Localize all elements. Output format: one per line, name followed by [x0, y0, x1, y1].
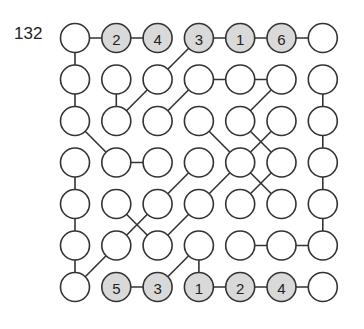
puzzle-board: 2431653124 [0, 0, 364, 329]
empty-node[interactable] [61, 231, 90, 260]
empty-node[interactable] [143, 65, 172, 94]
empty-node[interactable] [102, 190, 131, 219]
empty-node[interactable] [308, 107, 337, 136]
node-circle[interactable] [102, 65, 131, 94]
node-circle[interactable] [102, 107, 131, 136]
clue-node[interactable]: 4 [143, 24, 172, 53]
clue-node[interactable]: 2 [226, 273, 255, 302]
node-circle[interactable] [308, 65, 337, 94]
empty-node[interactable] [308, 148, 337, 177]
empty-node[interactable] [61, 65, 90, 94]
node-circle[interactable] [226, 107, 255, 136]
node-circle[interactable] [267, 65, 296, 94]
node-circle[interactable] [267, 148, 296, 177]
empty-node[interactable] [184, 148, 213, 177]
node-circle[interactable] [61, 24, 90, 53]
node-circle[interactable] [267, 107, 296, 136]
clue-value: 2 [236, 280, 244, 297]
empty-node[interactable] [143, 148, 172, 177]
node-circle[interactable] [61, 148, 90, 177]
node-circle[interactable] [61, 65, 90, 94]
clue-value: 1 [195, 280, 203, 297]
node-circle[interactable] [267, 231, 296, 260]
clue-node[interactable]: 6 [267, 24, 296, 53]
node-circle[interactable] [308, 273, 337, 302]
clue-value: 4 [153, 31, 161, 48]
node-circle[interactable] [184, 231, 213, 260]
empty-node[interactable] [226, 190, 255, 219]
node-circle[interactable] [184, 65, 213, 94]
node-circle[interactable] [61, 273, 90, 302]
empty-node[interactable] [267, 65, 296, 94]
node-circle[interactable] [143, 190, 172, 219]
empty-node[interactable] [267, 190, 296, 219]
empty-node[interactable] [226, 148, 255, 177]
node-circle[interactable] [102, 190, 131, 219]
node-circle[interactable] [184, 190, 213, 219]
node-circle[interactable] [308, 231, 337, 260]
empty-node[interactable] [267, 231, 296, 260]
node-circle[interactable] [308, 107, 337, 136]
empty-node[interactable] [308, 24, 337, 53]
node-circle[interactable] [226, 148, 255, 177]
clue-value: 3 [153, 280, 161, 297]
clue-value: 4 [277, 280, 285, 297]
node-circle[interactable] [143, 148, 172, 177]
empty-node[interactable] [184, 231, 213, 260]
empty-node[interactable] [308, 65, 337, 94]
clue-node[interactable]: 1 [184, 273, 213, 302]
node-circle[interactable] [143, 231, 172, 260]
empty-node[interactable] [102, 148, 131, 177]
node-circle[interactable] [102, 231, 131, 260]
clue-node[interactable]: 4 [267, 273, 296, 302]
clue-node[interactable]: 3 [184, 24, 213, 53]
clue-value: 1 [236, 31, 244, 48]
node-circle[interactable] [61, 107, 90, 136]
empty-node[interactable] [102, 107, 131, 136]
clue-node[interactable]: 2 [102, 24, 131, 53]
clue-value: 2 [112, 31, 120, 48]
clue-node[interactable]: 3 [143, 273, 172, 302]
clue-value: 5 [112, 280, 120, 297]
node-circle[interactable] [226, 190, 255, 219]
empty-node[interactable] [184, 65, 213, 94]
empty-node[interactable] [61, 107, 90, 136]
empty-node[interactable] [226, 107, 255, 136]
node-circle[interactable] [102, 148, 131, 177]
clue-node[interactable]: 1 [226, 24, 255, 53]
node-circle[interactable] [61, 231, 90, 260]
empty-node[interactable] [308, 231, 337, 260]
node-circle[interactable] [143, 107, 172, 136]
empty-node[interactable] [308, 273, 337, 302]
empty-node[interactable] [143, 107, 172, 136]
empty-node[interactable] [226, 65, 255, 94]
empty-node[interactable] [184, 190, 213, 219]
node-circle[interactable] [226, 231, 255, 260]
empty-node[interactable] [102, 65, 131, 94]
node-circle[interactable] [308, 148, 337, 177]
empty-node[interactable] [61, 190, 90, 219]
empty-node[interactable] [267, 148, 296, 177]
clue-value: 6 [277, 31, 285, 48]
empty-node[interactable] [267, 107, 296, 136]
node-circle[interactable] [184, 148, 213, 177]
node-circle[interactable] [308, 190, 337, 219]
empty-node[interactable] [61, 273, 90, 302]
node-circle[interactable] [267, 190, 296, 219]
clue-node[interactable]: 5 [102, 273, 131, 302]
node-circle[interactable] [226, 65, 255, 94]
clue-value: 3 [195, 31, 203, 48]
node-circle[interactable] [143, 65, 172, 94]
empty-node[interactable] [61, 148, 90, 177]
empty-node[interactable] [102, 231, 131, 260]
empty-node[interactable] [184, 107, 213, 136]
node-circle[interactable] [184, 107, 213, 136]
node-circle[interactable] [61, 190, 90, 219]
empty-node[interactable] [143, 231, 172, 260]
empty-node[interactable] [308, 190, 337, 219]
empty-node[interactable] [143, 190, 172, 219]
node-circle[interactable] [308, 24, 337, 53]
empty-node[interactable] [226, 231, 255, 260]
empty-node[interactable] [61, 24, 90, 53]
